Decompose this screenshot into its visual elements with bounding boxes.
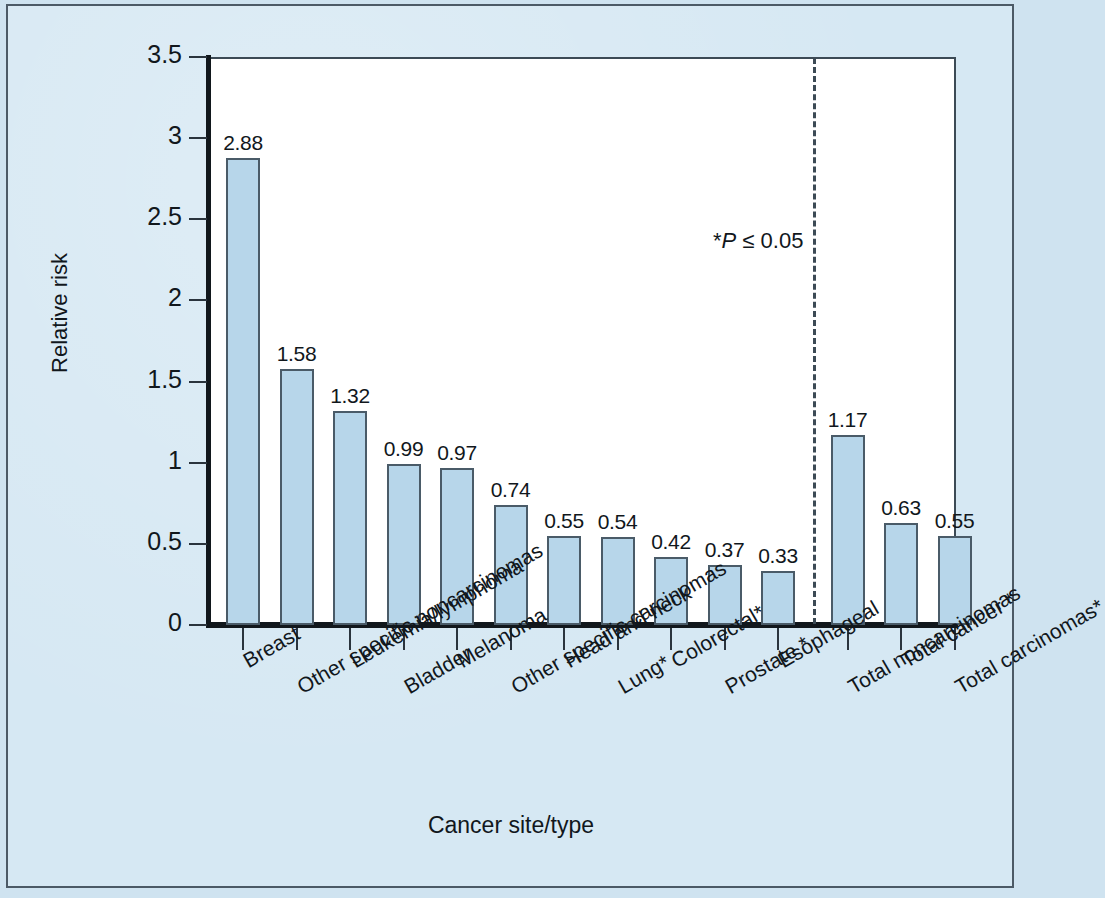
y-axis-tick [189,218,207,220]
bar-value-label: 1.17 [813,408,883,432]
bar-other-specific-noncarcinomas [280,369,314,625]
bar-total-noncarcinomas [831,435,865,625]
bar-value-label: 2.88 [208,131,278,155]
bar-head-and-neck [547,536,581,625]
y-axis-tick [189,299,207,301]
y-axis-tick-label: 1 [92,446,182,475]
x-axis-title: Cancer site/type [0,812,1022,839]
x-axis-label-breast: Breast [239,621,304,672]
bar-breast [226,158,260,625]
y-axis-tick-label: 3.5 [92,40,182,69]
bar-value-label: 0.74 [476,478,546,502]
y-axis-tick-label: 1.5 [92,365,182,394]
y-axis-tick [189,543,207,545]
x-axis-label-lung: Lung* [614,650,674,698]
y-axis-tick-label: 2 [92,283,182,312]
y-axis-tick [189,624,207,626]
y-axis-tick-label: 3 [92,121,182,150]
bar-total-cancer [884,523,918,625]
bar-bladder [387,464,421,625]
bar-leukemia-lymphoma [333,411,367,625]
y-axis-title: Relative risk [47,193,73,433]
significance-threshold: ≤ 0.05 [736,228,803,253]
significance-asterisk: * [713,228,722,253]
y-axis-tick [189,381,207,383]
significance-note: *P ≤ 0.05 [713,228,803,254]
bar-value-label: 0.33 [743,544,813,568]
x-axis-tick [670,628,672,650]
y-axis-tick-label: 2.5 [92,202,182,231]
y-axis-tick-label: 0 [92,608,182,637]
y-axis-tick [189,56,207,58]
bar-value-label: 1.32 [315,384,385,408]
group-divider-dashed-line [813,58,816,624]
y-axis-tick [189,137,207,139]
y-axis-tick-label: 0.5 [92,527,182,556]
bar-value-label: 0.97 [422,441,492,465]
y-axis-tick [189,462,207,464]
x-axis-tick [242,628,244,650]
significance-p-symbol: P [722,228,737,253]
bar-value-label: 1.58 [262,342,332,366]
bar-value-label: 0.55 [920,509,990,533]
